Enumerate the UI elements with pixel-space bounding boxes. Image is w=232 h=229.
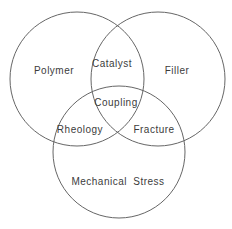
label-polymer: Polymer — [34, 65, 74, 76]
label-intersection-rheology: Rheology — [57, 124, 103, 135]
label-mechanical-stress: Mechanical Stress — [71, 176, 164, 187]
venn-diagram: Polymer Filler Mechanical Stress Catalys… — [0, 0, 232, 229]
label-intersection-catalyst: Catalyst — [92, 58, 132, 69]
label-filler: Filler — [165, 65, 190, 76]
label-intersection-fracture: Fracture — [133, 124, 174, 135]
venn-diagram-container: Polymer Filler Mechanical Stress Catalys… — [0, 0, 232, 229]
label-intersection-coupling: Coupling — [94, 97, 137, 108]
